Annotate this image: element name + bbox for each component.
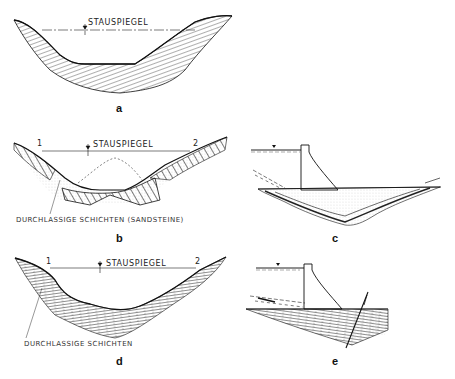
water-level-label-a: STAUSPIEGEL	[88, 18, 148, 27]
water-level-symbol-e	[276, 263, 280, 266]
panel-e: e	[246, 263, 388, 367]
water-level-label-d: STAUSPIEGEL	[106, 259, 166, 268]
dashed-dip-c1	[253, 170, 285, 188]
water-level-symbol-c	[272, 145, 276, 148]
dam-e	[304, 264, 342, 309]
dashed-dip-e1	[250, 296, 305, 303]
water-level-symbol-a	[83, 24, 87, 35]
fault-block-e	[352, 309, 388, 340]
figure-label-b: b	[116, 232, 123, 244]
valley-rock-a	[14, 16, 232, 93]
point-2-b: 2	[193, 139, 198, 148]
dashed-dip-e2	[255, 301, 303, 307]
figure-label-c: c	[332, 232, 338, 244]
figure-label-d: d	[116, 355, 123, 367]
syncline-layers-c	[258, 187, 440, 225]
dashed-dip-c3	[425, 178, 440, 183]
figure-label-e: e	[332, 355, 338, 367]
panel-a: STAUSPIEGEL a	[14, 16, 232, 114]
anticline-dashed-b	[78, 158, 142, 183]
panel-c: c	[251, 145, 441, 244]
annotation-b: DURCHLASSIGE SCHICHTEN (SANDSTEINE)	[16, 216, 184, 224]
point-1-d: 1	[46, 257, 51, 266]
panel-b: STAUSPIEGEL 1 2 DURCHLASSIGE SCHICHTEN (…	[14, 137, 227, 244]
point-1-b: 1	[37, 139, 42, 148]
annotation-d: DURCHLASSIGE SCHICHTEN	[24, 340, 133, 348]
valley-layers-d	[15, 257, 226, 338]
annotation-leader-d	[26, 288, 42, 338]
water-level-symbol-d	[98, 261, 102, 273]
water-level-label-b: STAUSPIEGEL	[93, 140, 153, 149]
right-slope-layers-b	[150, 137, 227, 180]
dam-c	[301, 145, 338, 190]
water-level-symbol-b	[86, 144, 90, 156]
dashed-dip-c2	[255, 175, 280, 188]
figure-label-a: a	[116, 102, 123, 114]
geological-dam-diagram: STAUSPIEGEL a STAUSPIEGEL 1 2 DURCHLASSI…	[0, 0, 455, 379]
panel-d: STAUSPIEGEL 1 2 DURCHLASSIGE SCHICHTEN d	[15, 257, 226, 367]
point-2-d: 2	[195, 257, 200, 266]
bold-dip-e	[258, 298, 275, 302]
